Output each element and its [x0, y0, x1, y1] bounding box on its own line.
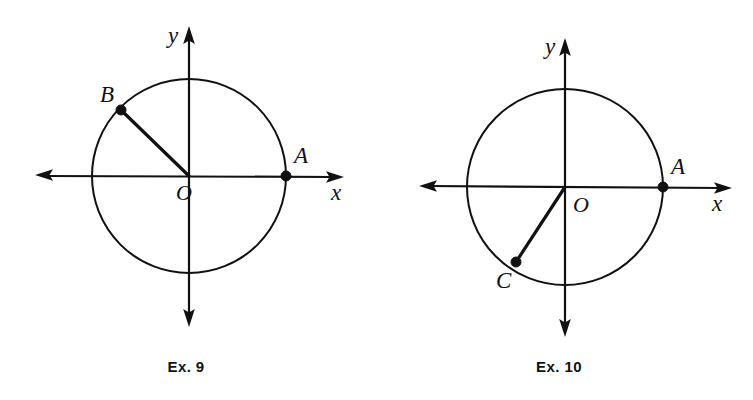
ex10-y-axis-label: y — [543, 34, 556, 59]
ex10-point-A-dot — [658, 182, 668, 192]
ex10-point-A-label: A — [669, 154, 686, 179]
ex9-point-A-label: A — [292, 143, 309, 168]
ex9-origin-label: O — [176, 180, 192, 205]
ex10-point-C-label: C — [496, 268, 512, 293]
ex9-x-axis-label: x — [330, 180, 342, 205]
ex9-y-axis-label: y — [166, 23, 179, 48]
ex10-x-axis-label: x — [711, 191, 723, 216]
ex9-point-B-dot — [116, 105, 126, 115]
ex10-origin-label: O — [573, 192, 589, 217]
figure-ex9: y x A B O Ex. 9 — [35, 23, 344, 375]
ex10-caption: Ex. 10 — [536, 358, 582, 375]
figure-ex10: y x A C O Ex. 10 — [419, 34, 732, 375]
ex9-caption: Ex. 9 — [167, 358, 204, 375]
ex9-radius-OB — [121, 110, 189, 176]
ex10-x-axis-line — [429, 186, 722, 188]
ex10-point-C-dot — [511, 257, 521, 267]
ex9-point-B-label: B — [100, 82, 114, 107]
exercise-figures-canvas: y x A B O Ex. 9 y x — [0, 0, 753, 400]
ex10-radius-OC — [516, 187, 565, 262]
ex9-point-A-dot — [281, 171, 291, 181]
figure-sheet: y x A B O Ex. 9 y x — [0, 0, 753, 400]
